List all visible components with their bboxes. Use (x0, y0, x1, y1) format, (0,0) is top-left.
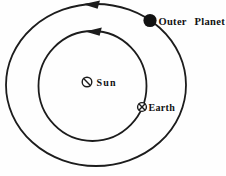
orbit-diagram-canvas: Sun Earth Outer Planet (0, 0, 225, 176)
outer-planet-icon (143, 14, 156, 27)
inner-orbit-path (39, 31, 147, 141)
inner-orbit-direction-arrow-icon (85, 28, 102, 36)
outer-planet-label: Outer Planet (159, 16, 226, 27)
orbit-diagram: Sun Earth Outer Planet (0, 0, 225, 176)
sun-label: Sun (97, 77, 117, 88)
earth-label: Earth (149, 102, 176, 113)
sun-icon (82, 77, 92, 87)
outer-orbit-direction-arrow-icon (83, 1, 100, 9)
earth-icon (138, 103, 147, 112)
